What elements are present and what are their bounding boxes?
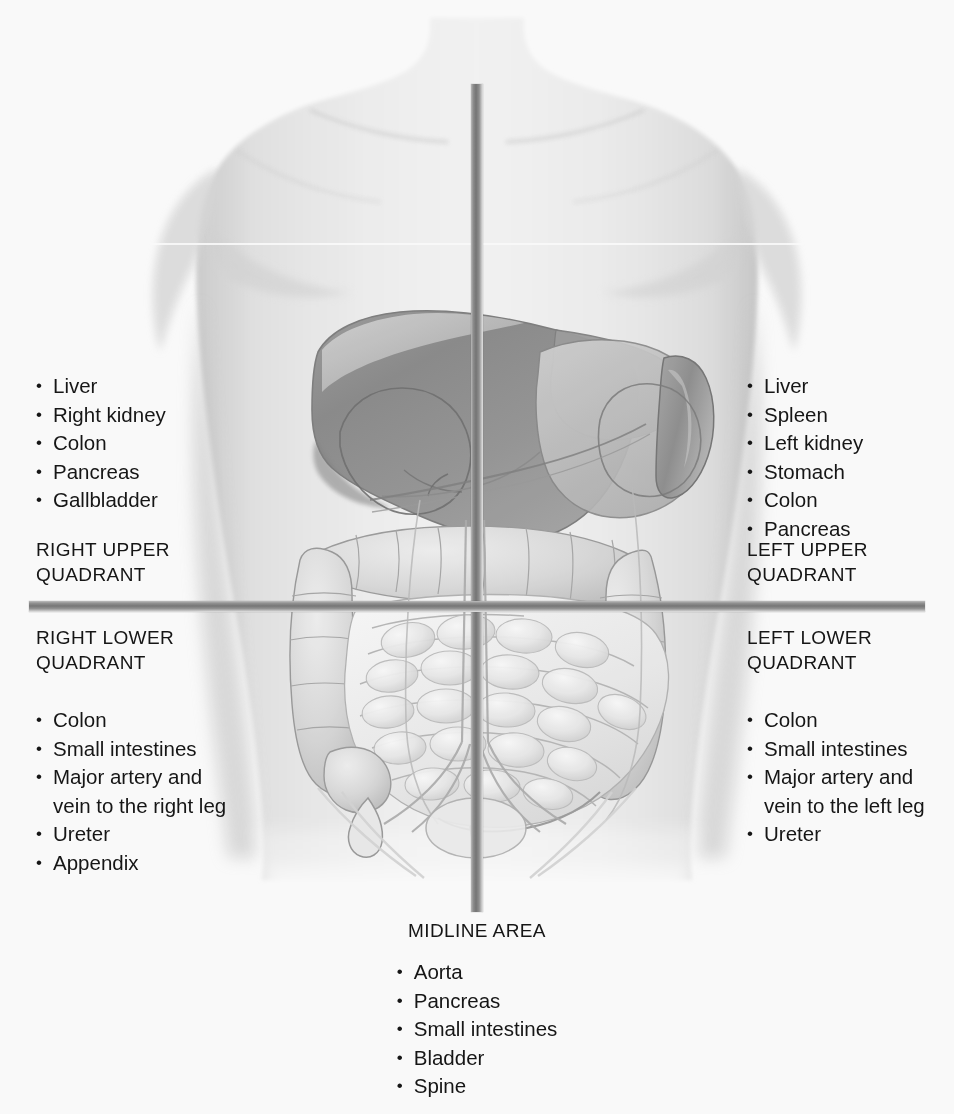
midline-area-heading: MIDLINE AREA xyxy=(0,920,954,942)
list-item: Small intestines xyxy=(36,735,226,764)
list-item: Major artery and vein to the right leg xyxy=(36,763,226,820)
list-item: Small intestines xyxy=(747,735,925,764)
list-item: Ureter xyxy=(747,820,925,849)
left-lower-quadrant-heading: LEFT LOWER QUADRANT xyxy=(747,625,872,675)
abdominal-quadrants-diagram: Liver Right kidney Colon Pancreas Gallbl… xyxy=(0,0,954,1114)
list-item: Bladder xyxy=(397,1044,558,1073)
list-item: Colon xyxy=(36,429,166,458)
right-lower-quadrant-organs: Colon Small intestines Major artery and … xyxy=(36,706,226,877)
list-item: Spine xyxy=(397,1072,558,1101)
list-item: Colon xyxy=(747,706,925,735)
stomach-organ xyxy=(382,340,711,518)
left-upper-quadrant-heading: LEFT UPPER QUADRANT xyxy=(747,537,868,587)
list-item: Spleen xyxy=(747,401,863,430)
descending-colon-organ xyxy=(587,550,666,799)
right-upper-quadrant-heading: RIGHT UPPER QUADRANT xyxy=(36,537,170,587)
right-kidney-organ xyxy=(340,388,471,514)
right-upper-quadrant-organs: Liver Right kidney Colon Pancreas Gallbl… xyxy=(36,372,166,515)
list-item: Pancreas xyxy=(36,458,166,487)
transverse-colon-organ xyxy=(314,526,656,612)
midline-area-section: MIDLINE AREA Aorta Pancreas Small intest… xyxy=(0,920,954,1101)
list-item: Pancreas xyxy=(397,987,558,1016)
left-lower-quadrant-organs: Colon Small intestines Major artery and … xyxy=(747,706,925,849)
midline-area-organs: Aorta Pancreas Small intestines Bladder … xyxy=(397,958,558,1101)
vertical-midline-divider xyxy=(471,84,483,912)
list-item: Appendix xyxy=(36,849,226,878)
pancreas-organ xyxy=(370,424,650,512)
list-item: Stomach xyxy=(747,458,863,487)
ureters xyxy=(406,486,642,824)
list-item: Right kidney xyxy=(36,401,166,430)
sigmoid-colon-organ xyxy=(438,792,600,882)
horizontal-transumbilical-divider xyxy=(29,601,925,612)
list-item: Colon xyxy=(747,486,863,515)
list-item: Gallbladder xyxy=(36,486,166,515)
liver-organ xyxy=(312,311,685,540)
list-item: Left kidney xyxy=(747,429,863,458)
list-item: Liver xyxy=(747,372,863,401)
spleen-organ xyxy=(656,356,714,498)
left-kidney-organ xyxy=(599,384,701,497)
list-item: Small intestines xyxy=(397,1015,558,1044)
appendix-organ xyxy=(324,747,391,857)
list-item: Aorta xyxy=(397,958,558,987)
list-item: Major artery and vein to the left leg xyxy=(747,763,925,820)
right-lower-quadrant-heading: RIGHT LOWER QUADRANT xyxy=(36,625,174,675)
list-item: Ureter xyxy=(36,820,226,849)
list-item: Colon xyxy=(36,706,226,735)
small-intestines-organ xyxy=(345,595,669,828)
list-item: Liver xyxy=(36,372,166,401)
ascending-colon-organ xyxy=(290,548,366,794)
left-upper-quadrant-organs: Liver Spleen Left kidney Stomach Colon P… xyxy=(747,372,863,543)
